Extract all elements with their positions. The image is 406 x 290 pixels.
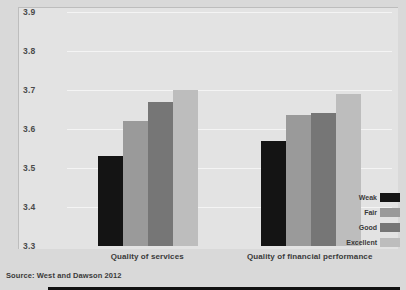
bar-good <box>148 102 173 246</box>
bar-good <box>311 113 336 246</box>
bar-chart-figure: Average overall engagement score 3.33.43… <box>0 0 406 290</box>
plot-frame: 3.33.43.53.63.73.83.9 <box>18 7 398 249</box>
legend-swatch-good <box>380 223 400 232</box>
legend-item-label: Good <box>359 224 377 231</box>
y-axis-tick-label: 3.7 <box>23 85 63 95</box>
legend-item[interactable]: Good <box>342 220 400 234</box>
legend-swatch-fair <box>380 208 400 217</box>
y-axis-tick-label: 3.4 <box>23 202 63 212</box>
y-axis-tick-label: 3.8 <box>23 46 63 56</box>
legend-item-label: Fair <box>364 209 377 216</box>
bar-fair <box>123 121 148 246</box>
legend-swatch-excellent <box>380 238 400 247</box>
bar-fair <box>286 115 311 246</box>
legend-item-label: Excellent <box>346 239 377 246</box>
legend-item[interactable]: Weak <box>342 190 400 204</box>
legend-item-label: Weak <box>359 194 377 201</box>
legend-swatch-weak <box>380 193 400 202</box>
chart-legend: WeakFairGoodExcellent <box>342 190 400 250</box>
bar-group <box>67 12 230 246</box>
legend-item[interactable]: Excellent <box>342 235 400 249</box>
bar-weak <box>98 156 123 246</box>
source-note: Source: West and Dawson 2012 <box>6 271 122 280</box>
y-axis-tick-label: 3.5 <box>23 163 63 173</box>
y-axis-tick-label: 3.9 <box>23 7 63 17</box>
x-axis-group-label: Quality of financial performance <box>210 252 406 261</box>
y-axis-tick-label: 3.3 <box>23 241 63 251</box>
bar-weak <box>261 141 286 246</box>
bar-excellent <box>173 90 198 246</box>
legend-item[interactable]: Fair <box>342 205 400 219</box>
y-axis-tick-label: 3.6 <box>23 124 63 134</box>
